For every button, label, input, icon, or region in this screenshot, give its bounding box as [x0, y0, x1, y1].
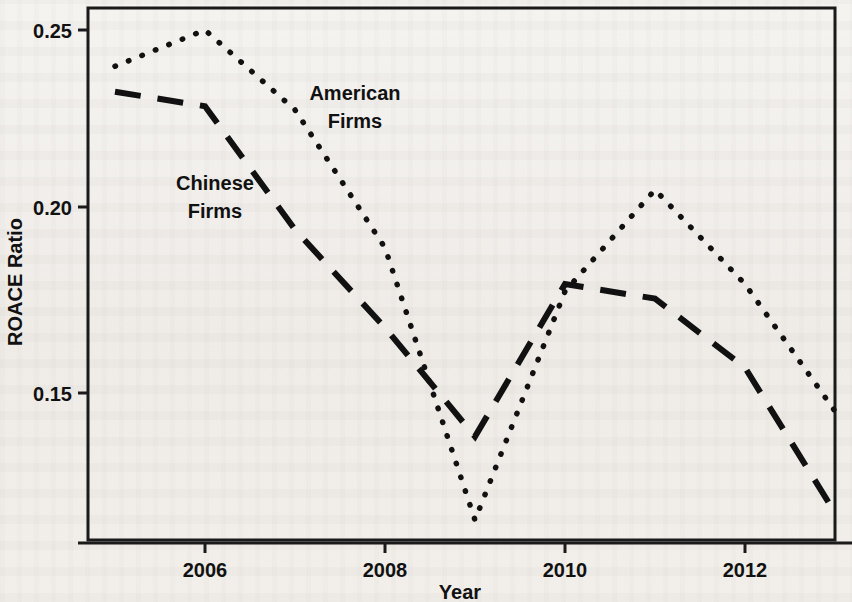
- series-line-chinese-firms: [115, 92, 835, 513]
- chart-svg: 0.25 0.20 0.15 ROACE Ratio 2006 2008 201…: [0, 0, 852, 602]
- y-tick-label-0.15: 0.15: [33, 383, 72, 405]
- series-annotation-american-line2: Firms: [328, 110, 382, 132]
- chart-figure: 0.25 0.20 0.15 ROACE Ratio 2006 2008 201…: [0, 0, 852, 602]
- plot-panel-border: [88, 8, 835, 540]
- x-tick-label-2006: 2006: [183, 559, 228, 581]
- y-tick-label-0.20: 0.20: [33, 197, 72, 219]
- x-tick-label-2010: 2010: [543, 559, 588, 581]
- x-tick-label-2012: 2012: [723, 559, 768, 581]
- y-axis-title: ROACE Ratio: [4, 218, 26, 346]
- series-annotation-american-line1: American: [309, 82, 400, 104]
- series-annotation-chinese-line2: Firms: [188, 200, 242, 222]
- x-axis-title: Year: [439, 581, 481, 602]
- series-line-american-firms: [115, 30, 835, 520]
- series-annotation-chinese-line1: Chinese: [176, 172, 254, 194]
- x-tick-label-2008: 2008: [363, 559, 408, 581]
- y-tick-label-0.25: 0.25: [33, 20, 72, 42]
